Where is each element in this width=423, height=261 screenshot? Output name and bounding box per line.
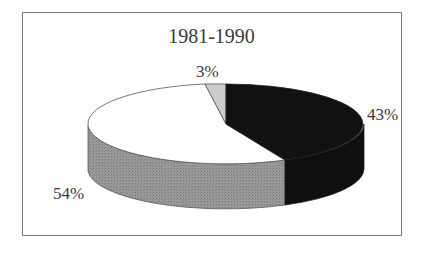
pie-chart: [0, 0, 423, 261]
label-54-percent: 54%: [53, 185, 84, 202]
label-3-percent: 3%: [196, 63, 219, 80]
label-43-percent: 43%: [367, 106, 398, 123]
